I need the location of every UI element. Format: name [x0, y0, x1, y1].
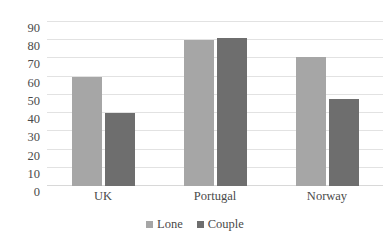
legend-item-couple[interactable]: Couple: [197, 218, 244, 231]
bar-group: [271, 22, 383, 186]
y-axis-labels: 9080706050403020100: [0, 22, 40, 186]
x-axis-labels: UKPortugalNorway: [47, 190, 383, 203]
bar-uk-couple: [105, 113, 135, 186]
bar-portugal-lone: [184, 40, 214, 186]
legend-item-lone[interactable]: Lone: [146, 218, 183, 231]
x-axis-tick-label-portugal: Portugal: [159, 190, 271, 203]
x-axis-tick-label-norway: Norway: [271, 190, 383, 203]
legend-swatch-icon-lone: [146, 221, 153, 228]
legend-swatch-icon-couple: [197, 221, 204, 228]
bar-portugal-couple: [217, 38, 247, 186]
plot-area: [47, 22, 383, 186]
bar-group: [159, 22, 271, 186]
bar-groups: [47, 22, 383, 186]
bar-norway-lone: [296, 57, 326, 186]
legend: LoneCouple: [0, 218, 390, 231]
x-axis-tick-label-uk: UK: [47, 190, 159, 203]
bar-norway-couple: [329, 99, 359, 186]
bar-uk-lone: [72, 77, 102, 186]
legend-label-couple: Couple: [208, 218, 244, 231]
bar-group: [47, 22, 159, 186]
bars: [271, 22, 383, 186]
legend-label-lone: Lone: [157, 218, 183, 231]
bars: [159, 22, 271, 186]
bar-chart: 9080706050403020100 UKPortugalNorway Lon…: [0, 0, 390, 241]
bars: [47, 22, 159, 186]
